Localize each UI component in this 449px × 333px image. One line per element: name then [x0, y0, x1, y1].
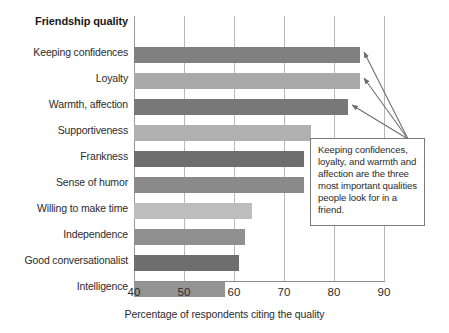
- x-tick-label: 70: [264, 286, 304, 298]
- x-tick-label: 40: [114, 286, 154, 298]
- bar: [134, 151, 304, 167]
- category-label: Loyalty: [0, 72, 128, 84]
- bar: [134, 73, 360, 89]
- category-label: Sense of humor: [0, 176, 128, 188]
- x-tick-label: 80: [314, 286, 354, 298]
- bar: [134, 229, 245, 245]
- bar: [134, 125, 311, 141]
- bar: [134, 255, 239, 271]
- category-label: Independence: [0, 228, 128, 240]
- category-label: Warmth, affection: [0, 98, 128, 110]
- bar-row: [134, 224, 384, 250]
- x-tick-label: 60: [214, 286, 254, 298]
- category-label: Frankness: [0, 150, 128, 162]
- x-tick-label: 50: [164, 286, 204, 298]
- x-tick-label: 90: [364, 286, 404, 298]
- bar: [134, 203, 252, 219]
- bar-row: [134, 250, 384, 276]
- category-label: Supportiveness: [0, 124, 128, 136]
- category-axis-title: Friendship quality: [0, 15, 128, 27]
- category-label: Good conversationalist: [0, 254, 128, 266]
- callout-annotation: Keeping confidences, loyalty, and warmth…: [310, 138, 425, 226]
- category-label: Willing to make time: [0, 202, 128, 214]
- category-label: Intelligence: [0, 280, 128, 292]
- bar-row: [134, 42, 384, 68]
- bar-row: [134, 94, 384, 120]
- x-axis-title: Percentage of respondents citing the qua…: [0, 308, 449, 320]
- x-axis-line: [134, 281, 385, 282]
- bar: [134, 177, 304, 193]
- bar-row: [134, 68, 384, 94]
- bar-chart-figure: Friendship quality Keeping confidencesLo…: [0, 0, 449, 333]
- bar: [134, 47, 360, 63]
- category-label: Keeping confidences: [0, 46, 128, 58]
- bar: [134, 99, 348, 115]
